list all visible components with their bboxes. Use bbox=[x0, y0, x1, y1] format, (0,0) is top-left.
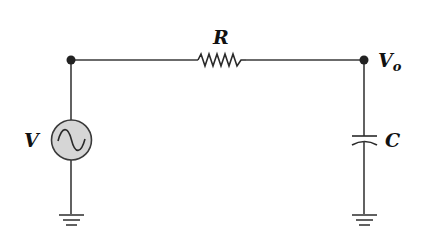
node-output-dot bbox=[360, 56, 369, 65]
ac-source-icon bbox=[52, 120, 92, 160]
output-label-subscript: o bbox=[393, 59, 402, 74]
node-left-dot bbox=[67, 56, 76, 65]
source-label: V bbox=[24, 129, 41, 151]
capacitor-label: C bbox=[385, 129, 400, 151]
ground-icon-right bbox=[352, 215, 377, 225]
rc-circuit-diagram: R V C Vo bbox=[0, 0, 423, 234]
ground-icon-left bbox=[59, 215, 84, 225]
resistor-label: R bbox=[212, 26, 229, 48]
resistor-icon bbox=[198, 54, 246, 66]
output-label: Vo bbox=[378, 49, 402, 74]
